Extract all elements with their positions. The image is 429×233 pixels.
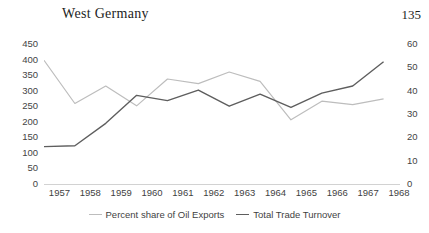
x-axis-tick: 1967: [358, 188, 379, 198]
plot-area: [44, 44, 399, 184]
corner-value-label: 135: [402, 7, 422, 23]
left-y-axis: 050100150200250300350400450: [6, 44, 40, 184]
x-axis-tick: 1960: [141, 188, 162, 198]
series-line-total-trade-turnover: [44, 62, 384, 147]
right-axis-tick: 50: [407, 62, 418, 72]
legend-item[interactable]: Percent share of Oil Exports: [89, 209, 225, 220]
left-axis-tick: 450: [22, 39, 38, 49]
legend-label: Percent share of Oil Exports: [106, 209, 225, 220]
left-axis-tick: 200: [22, 117, 38, 127]
left-axis-tick: 100: [22, 148, 38, 158]
right-axis-tick: 20: [407, 132, 418, 142]
right-axis-tick: 10: [407, 156, 418, 166]
left-axis-tick: 150: [22, 132, 38, 142]
x-axis-tick: 1968: [388, 188, 409, 198]
legend-item[interactable]: Total Trade Turnover: [236, 209, 340, 220]
x-axis-tick: 1959: [111, 188, 132, 198]
x-axis-tick: 1958: [80, 188, 101, 198]
left-axis-tick: 250: [22, 101, 38, 111]
chart-figure: West Germany 135 05010015020025030035040…: [0, 0, 429, 233]
x-axis: 1957195819591960196119621963196419651966…: [44, 188, 399, 202]
x-axis-tick: 1961: [172, 188, 193, 198]
left-axis-tick: 300: [22, 86, 38, 96]
plot-svg: [44, 44, 399, 184]
left-axis-tick: 0: [33, 179, 38, 189]
chart-legend: Percent share of Oil ExportsTotal Trade …: [0, 209, 429, 220]
axis-baseline: [44, 184, 400, 185]
x-axis-tick: 1966: [327, 188, 348, 198]
right-axis-tick: 60: [407, 39, 418, 49]
legend-swatch-icon: [89, 214, 102, 216]
x-axis-tick: 1964: [265, 188, 286, 198]
right-y-axis: 0102030405060: [401, 44, 429, 184]
left-axis-tick: 50: [27, 163, 38, 173]
x-axis-tick: 1962: [203, 188, 224, 198]
x-axis-tick: 1957: [49, 188, 70, 198]
chart-title: West Germany: [62, 6, 149, 22]
x-axis-tick: 1965: [296, 188, 317, 198]
left-axis-tick: 350: [22, 70, 38, 80]
right-axis-tick: 40: [407, 86, 418, 96]
legend-swatch-icon: [236, 214, 249, 216]
legend-label: Total Trade Turnover: [253, 209, 340, 220]
left-axis-tick: 400: [22, 55, 38, 65]
right-axis-tick: 30: [407, 109, 418, 119]
x-axis-tick: 1963: [234, 188, 255, 198]
